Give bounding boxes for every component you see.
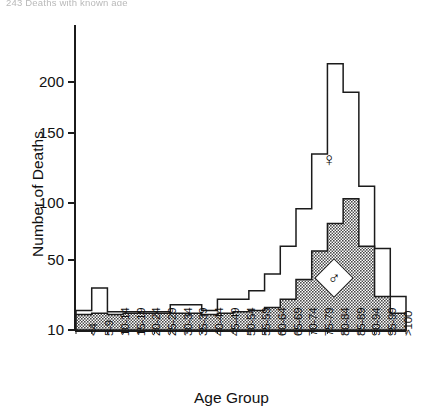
x-tick-label: <4 bbox=[88, 323, 100, 336]
x-tick-label: 20-24 bbox=[151, 308, 163, 336]
x-tick-label: 25-29 bbox=[167, 308, 179, 336]
x-tick-label: 70-74 bbox=[308, 308, 320, 336]
x-tick-label: 40-44 bbox=[214, 308, 226, 336]
x-axis-title: Age Group bbox=[0, 389, 445, 407]
y-axis-title: Number of Deaths bbox=[29, 94, 47, 294]
x-tick-label: 65-69 bbox=[293, 308, 305, 336]
x-tick-label: >100 bbox=[403, 311, 415, 336]
x-tick-label: 30-34 bbox=[183, 308, 195, 336]
x-tick-label: 5-9 bbox=[104, 320, 116, 336]
x-tick-label: 45-49 bbox=[230, 308, 242, 336]
x-tick-label: 80-84 bbox=[340, 308, 352, 336]
x-tick-label: 15-19 bbox=[136, 308, 148, 336]
x-tick-label: 95-99 bbox=[387, 308, 399, 336]
x-tick-label: 10-14 bbox=[120, 308, 132, 336]
x-tick-label: 90-94 bbox=[371, 308, 383, 336]
x-tick-label: 50-54 bbox=[246, 308, 258, 336]
x-tick-label: 85-89 bbox=[356, 308, 368, 336]
y-tick bbox=[68, 329, 76, 331]
histogram-plot bbox=[0, 0, 445, 412]
x-tick-label: 55-59 bbox=[261, 308, 273, 336]
y-tick bbox=[68, 132, 76, 134]
x-tick-label: 35-39 bbox=[198, 308, 210, 336]
male-symbol: ♂ bbox=[328, 270, 341, 287]
y-tick bbox=[68, 81, 76, 83]
y-tick bbox=[68, 202, 76, 204]
female-symbol: ♀ bbox=[322, 150, 336, 169]
x-tick-label: 60-64 bbox=[277, 308, 289, 336]
y-tick bbox=[68, 259, 76, 261]
x-tick-label: 75-79 bbox=[324, 308, 336, 336]
y-tick-label: 200 bbox=[0, 74, 64, 89]
y-tick-label: 10 bbox=[0, 322, 64, 337]
histogram-figure: 1050100150200 <45-910-1415-1920-2425-293… bbox=[0, 0, 445, 412]
